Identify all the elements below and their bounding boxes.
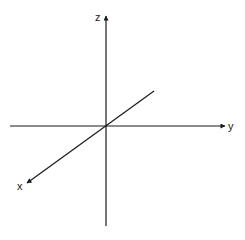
axes-diagram: z y x	[0, 0, 245, 240]
x-axis-line	[27, 91, 154, 183]
x-axis-label: x	[17, 180, 23, 192]
z-axis-label: z	[95, 11, 101, 23]
y-axis-label: y	[228, 120, 234, 132]
